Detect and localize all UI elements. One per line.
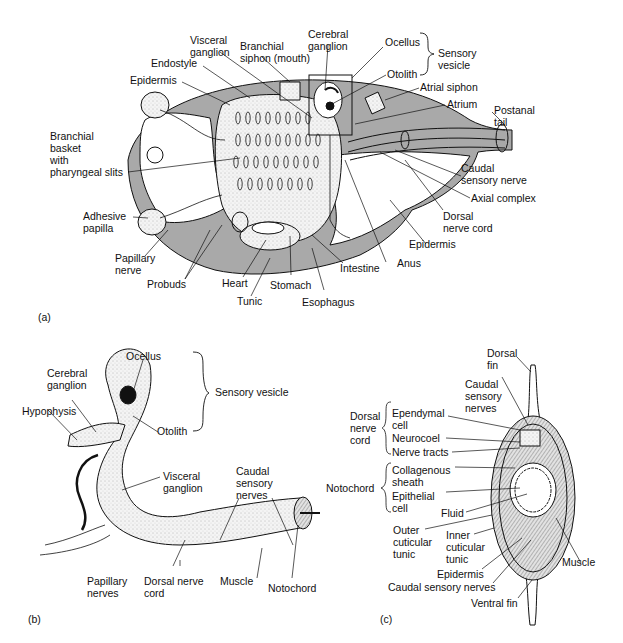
sensory-vesicle-brace-b: [193, 352, 209, 431]
label-heart: Heart: [222, 277, 248, 289]
label-tunic: Tunic: [237, 295, 262, 307]
label-visceral-ganglion: Visceral ganglion: [190, 34, 230, 58]
ventral-fin-shape: [526, 576, 538, 625]
label-collagenous-sheath: Collagenous sheath: [392, 464, 450, 488]
larva-body-b: [97, 349, 300, 545]
label-adhesive-papilla: Adhesive papilla: [83, 210, 126, 234]
label-axial-complex: Axial complex: [471, 192, 536, 204]
label-epidermis-bottom: Epidermis: [409, 238, 456, 250]
label-outer-cuticular-tunic: Outer cuticular tunic: [393, 524, 432, 560]
label-branchial-siphon: Branchial siphon (mouth): [240, 40, 310, 64]
dorsal-fin-shape: [528, 365, 540, 420]
label-ependymal-cell: Ependymal cell: [392, 407, 445, 431]
label-cerebral-ganglion: Cerebral ganglion: [308, 28, 348, 52]
label-esophagus: Esophagus: [302, 296, 355, 308]
panel-tag-a: (a): [38, 311, 51, 323]
label-dorsal-fin: Dorsal fin: [487, 347, 517, 371]
label-dorsal-nerve-cord-a: Dorsal nerve cord: [443, 210, 493, 234]
label-postanal-tail: Postanal tail: [494, 104, 535, 128]
label-notochord-b: Notochord: [268, 582, 316, 594]
label-caudal-sensory-nerve: Caudal sensory nerve: [461, 162, 527, 186]
label-ocellus-b: Ocellus: [126, 350, 161, 362]
label-dorsal-nerve-cord-b: Dorsal nerve cord: [144, 575, 204, 599]
label-atrial-siphon: Atrial siphon: [420, 81, 478, 93]
label-anus: Anus: [397, 257, 421, 269]
ascidian-larva-illustration: [0, 0, 623, 643]
label-sensory-vesicle-b: Sensory vesicle: [215, 386, 289, 398]
label-dorsal-nerve-cord-c: Dorsal nerve cord: [350, 410, 380, 446]
label-epidermis-c: Epidermis: [437, 568, 484, 580]
label-papillary-nerves: Papillary nerves: [87, 575, 127, 599]
label-inner-cuticular-tunic: Inner cuticular tunic: [446, 529, 485, 565]
label-epidermis-top: Epidermis: [130, 74, 177, 86]
label-visceral-ganglion-b: Visceral ganglion: [163, 470, 203, 494]
label-notochord-c: Notochord: [326, 482, 374, 494]
label-caudal-sensory-nerves-b: Caudal sensory nerves: [236, 465, 273, 501]
label-cerebral-ganglion-b: Cerebral ganglion: [47, 367, 87, 391]
label-otolith-a: Otolith: [387, 68, 417, 80]
label-ocellus-a: Ocellus: [385, 36, 420, 48]
label-atrium: Atrium: [447, 98, 477, 110]
label-stomach: Stomach: [270, 279, 311, 291]
label-hypophysis: Hypophysis: [22, 405, 76, 417]
label-caudal-sensory-nerves-bottom: Caudal sensory nerves: [388, 581, 495, 593]
label-muscle-c: Muscle: [562, 556, 595, 568]
label-probuds: Probuds: [147, 278, 186, 290]
label-nerve-tracts: Nerve tracts: [392, 446, 449, 458]
label-caudal-sensory-nerves-top: Caudal sensory nerves: [465, 378, 502, 414]
panel-c-drawing: [491, 365, 575, 625]
dorsal-nerve-cord-brace: [382, 402, 391, 454]
label-papillary-nerve: Papillary nerve: [115, 252, 155, 276]
label-muscle-b: Muscle: [220, 575, 253, 587]
label-ventral-fin: Ventral fin: [471, 597, 518, 609]
label-epithelial-cell: Epithelial cell: [392, 490, 435, 514]
notochord-brace: [381, 463, 391, 512]
panel-tag-c: (c): [380, 613, 392, 625]
label-sensory-vesicle-a: Sensory vesicle: [438, 47, 477, 71]
label-neurocoel: Neurocoel: [392, 432, 440, 444]
label-endostyle: Endostyle: [151, 57, 197, 69]
panel-tag-b: (b): [28, 613, 41, 625]
sensory-vesicle-brace-a: [420, 33, 434, 75]
label-otolith-b: Otolith: [157, 425, 187, 437]
label-branchial-basket: Branchial basket with pharyngeal slits: [50, 130, 123, 178]
label-intestine: Intestine: [340, 262, 380, 274]
label-fluid: Fluid: [441, 507, 464, 519]
